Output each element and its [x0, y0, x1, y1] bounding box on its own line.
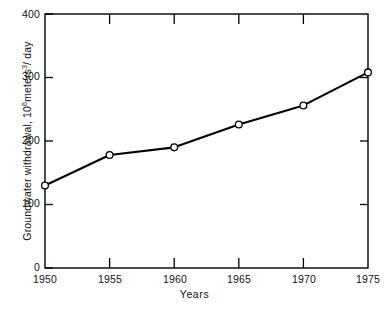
- data-point-1955: [106, 152, 113, 159]
- plot-area: [0, 0, 389, 309]
- data-series-line: [45, 72, 368, 185]
- axis-frame: [45, 14, 368, 268]
- data-series-markers: [42, 69, 372, 189]
- data-point-1950: [42, 182, 49, 189]
- data-point-1960: [171, 144, 178, 151]
- data-point-1975: [365, 69, 372, 76]
- x-axis-ticks-bottom: [110, 258, 304, 268]
- y-axis-ticks-left: [45, 14, 53, 268]
- y-axis-ticks-right: [360, 78, 368, 205]
- chart-figure: Groundwater withdrawal, 106meters3/ day …: [0, 0, 389, 309]
- x-axis-ticks-top: [110, 14, 304, 24]
- data-point-1970: [300, 102, 307, 109]
- data-point-1965: [235, 121, 242, 128]
